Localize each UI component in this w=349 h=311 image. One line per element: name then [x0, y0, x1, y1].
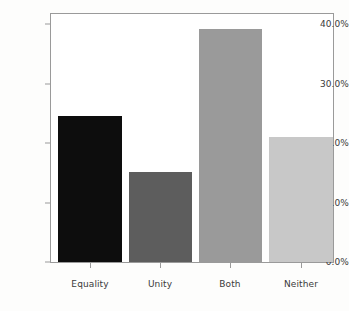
x-tick-label-both: Both	[219, 280, 240, 289]
y-tick-mark	[45, 143, 50, 144]
x-tick-mark	[90, 263, 91, 268]
y-tick-mark	[45, 262, 50, 263]
x-tick-mark	[230, 263, 231, 268]
x-tick-label-equality: Equality	[71, 280, 108, 289]
x-tick-label-unity: Unity	[148, 280, 172, 289]
bar-both[interactable]	[199, 29, 262, 262]
x-tick-mark	[301, 263, 302, 268]
plot-area	[51, 24, 333, 262]
bar-equality[interactable]	[58, 116, 122, 262]
x-tick-mark	[160, 263, 161, 268]
y-tick-mark	[45, 83, 50, 84]
bar-chart: 40.0% 30.0% 20.0% 10.0% 0.0% Equality Un…	[0, 0, 349, 311]
y-tick-mark	[45, 202, 50, 203]
y-tick-mark	[45, 24, 50, 25]
bar-neither[interactable]	[269, 137, 333, 262]
bar-unity[interactable]	[129, 172, 192, 262]
x-tick-label-neither: Neither	[284, 280, 318, 289]
